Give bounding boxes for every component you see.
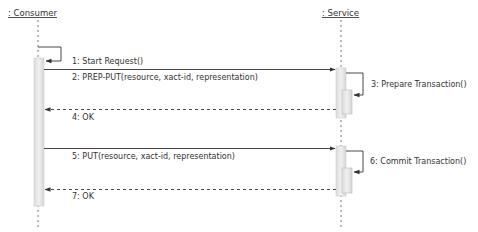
message-1-label: 1: Start Request() (72, 57, 143, 66)
message-4-label: 4: OK (72, 113, 95, 122)
message-7-label: 7: OK (72, 192, 95, 201)
service-nested-activation-bar-2 (342, 168, 352, 193)
sequence-diagram: : Consumer : Service 1: Start Request() … (0, 0, 478, 232)
message-3-label: 3: Prepare Transaction() (371, 80, 467, 89)
message-6-label: 6: Commit Transaction() (370, 157, 466, 166)
message-5-label: 5: PUT(resource, xact-id, representation… (72, 152, 235, 161)
participant-consumer-label: : Consumer (8, 8, 57, 18)
consumer-activation-bar (34, 58, 44, 206)
service-nested-activation-bar-1 (342, 90, 352, 114)
participant-service-label: : Service (322, 8, 359, 18)
message-2-label: 2: PREP-PUT(resource, xact-id, represent… (72, 73, 258, 82)
